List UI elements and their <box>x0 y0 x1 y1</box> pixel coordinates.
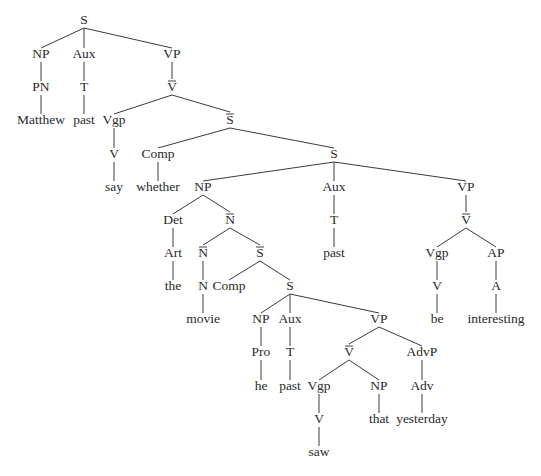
category-label: Adv <box>410 378 433 393</box>
category-label: V <box>432 278 442 293</box>
tree-edge <box>230 128 334 148</box>
word-label: Matthew <box>17 112 65 127</box>
tree-node: VP <box>163 46 180 61</box>
category-label: S <box>80 12 88 27</box>
tree-edge <box>84 28 172 48</box>
tree-node: V <box>461 212 471 227</box>
tree-node: T <box>286 344 295 359</box>
leaf-word: past <box>73 112 95 127</box>
category-label: T <box>330 212 339 227</box>
tree-edge <box>290 294 379 313</box>
word-label: saw <box>309 444 330 459</box>
tree-node: VP <box>370 311 387 326</box>
tree-node: V <box>109 146 119 161</box>
tree-node: VP <box>457 179 474 194</box>
category-label: Aux <box>322 179 345 194</box>
category-label: S <box>286 278 294 293</box>
leaf-word: past <box>323 245 345 260</box>
word-label: say <box>105 179 123 194</box>
tree-node: NP <box>252 311 269 326</box>
tree-node: Aux <box>322 179 345 194</box>
tree-node: Pro <box>252 344 271 359</box>
category-label: T <box>286 344 295 359</box>
leaf-word: whether <box>136 179 180 194</box>
category-label: NP <box>370 378 387 393</box>
tree-edge <box>203 195 230 212</box>
tree-edge <box>172 95 230 112</box>
leaf-word: interesting <box>468 311 525 326</box>
leaf-word: saw <box>309 444 330 459</box>
tree-node: S <box>226 112 234 127</box>
category-label: Det <box>163 212 183 227</box>
category-label: Vgp <box>307 378 330 393</box>
leaf-word: past <box>279 378 301 393</box>
tree-node: S <box>330 146 338 161</box>
tree-node: AP <box>487 245 504 260</box>
syntax-tree-diagram: SNPAuxVPPNTVMatthewpastVgpSVCompSsaywhet… <box>0 0 541 476</box>
tree-node: NP <box>370 378 387 393</box>
tree-node: T <box>330 212 339 227</box>
word-label: whether <box>136 179 180 194</box>
tree-node: PN <box>32 79 50 94</box>
tree-node: A <box>491 278 501 293</box>
leaf-word: say <box>105 179 123 194</box>
category-label: NP <box>32 46 49 61</box>
tree-edge <box>349 327 379 344</box>
category-label: Art <box>164 245 182 260</box>
word-label: that <box>369 411 389 426</box>
leaf-word: he <box>255 378 268 393</box>
tree-edge <box>158 128 230 148</box>
category-label: VP <box>370 311 387 326</box>
tree-node: V <box>344 344 354 359</box>
category-label: NP <box>252 311 269 326</box>
category-label: PN <box>32 79 50 94</box>
tree-node: T <box>80 79 89 94</box>
tree-node: Aux <box>72 46 95 61</box>
tree-node: S <box>80 12 88 27</box>
word-label: past <box>323 245 345 260</box>
word-label: movie <box>186 311 220 326</box>
word-label: the <box>165 278 182 293</box>
leaf-word: be <box>431 311 444 326</box>
leaf-word: movie <box>186 311 220 326</box>
word-label: past <box>279 378 301 393</box>
category-label: VP <box>457 179 474 194</box>
tree-edge <box>41 28 84 48</box>
word-label: past <box>73 112 95 127</box>
tree-node: N <box>198 278 208 293</box>
category-label: T <box>80 79 89 94</box>
tree-node: Comp <box>141 146 174 161</box>
tree-node: Aux <box>278 311 301 326</box>
word-label: he <box>255 378 268 393</box>
category-label: A <box>491 278 501 293</box>
tree-node: V <box>167 79 177 94</box>
tree-edge <box>203 162 334 181</box>
category-label: V <box>109 146 119 161</box>
tree-node: Det <box>163 212 183 227</box>
tree-node: Comp <box>212 278 245 293</box>
tree-node: Art <box>164 245 182 260</box>
leaf-word: that <box>369 411 389 426</box>
leaf-word: the <box>165 278 182 293</box>
tree-node: S <box>286 278 294 293</box>
leaf-word: yesterday <box>396 411 448 426</box>
category-label: N <box>198 278 208 293</box>
tree-node: V <box>314 411 324 426</box>
category-label: NP <box>194 179 211 194</box>
category-label: S <box>330 146 338 161</box>
tree-node: N <box>198 245 208 260</box>
word-label: interesting <box>468 311 525 326</box>
category-label: Vgp <box>102 112 125 127</box>
tree-node: AdvP <box>407 344 438 359</box>
word-label: yesterday <box>396 411 448 426</box>
tree-node: NP <box>32 46 49 61</box>
tree-node: Vgp <box>102 112 125 127</box>
tree-node: S <box>256 245 264 260</box>
tree-node: V <box>432 278 442 293</box>
tree-edge <box>203 228 230 245</box>
category-label: AdvP <box>407 344 438 359</box>
category-label: V <box>314 411 324 426</box>
tree-edge <box>334 162 466 181</box>
tree-node: NP <box>194 179 211 194</box>
tree-node: Vgp <box>307 378 330 393</box>
